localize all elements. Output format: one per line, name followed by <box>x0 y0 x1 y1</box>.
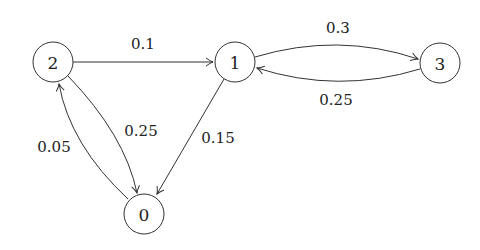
edge-1-to-3: 0.3 <box>255 19 418 59</box>
node-label-0: 0 <box>139 205 150 225</box>
node-label-2: 2 <box>48 53 59 73</box>
node-2: 2 <box>33 42 73 82</box>
arrow-1-to-3 <box>255 45 418 59</box>
node-3: 3 <box>420 43 460 83</box>
node-1: 1 <box>215 42 255 82</box>
markov-chain-diagram: 0.1 0.3 0.25 0.25 0.05 0.15 2 1 3 0 <box>0 0 480 250</box>
arrow-3-to-1 <box>257 68 420 81</box>
edge-2-to-0: 0.25 <box>68 76 158 193</box>
edge-label-1-to-0: 0.15 <box>201 129 234 147</box>
edge-2-to-1: 0.1 <box>73 35 213 62</box>
node-label-1: 1 <box>230 53 241 73</box>
edge-0-to-2: 0.05 <box>37 84 128 199</box>
edge-label-1-to-3: 0.3 <box>326 19 350 37</box>
edge-label-2-to-1: 0.1 <box>131 35 155 53</box>
edge-label-3-to-1: 0.25 <box>319 91 352 109</box>
node-label-3: 3 <box>435 54 446 74</box>
edge-1-to-0: 0.15 <box>157 79 235 194</box>
edge-label-2-to-0: 0.25 <box>124 122 157 140</box>
edge-label-0-to-2: 0.05 <box>37 138 70 156</box>
node-0: 0 <box>124 194 164 234</box>
edge-3-to-1: 0.25 <box>257 68 420 109</box>
